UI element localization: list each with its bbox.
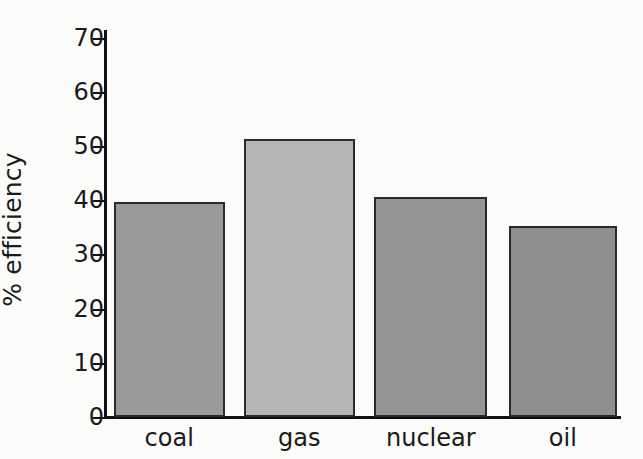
x-axis-label-coal: coal xyxy=(114,424,225,452)
y-axis-tick-label: 70 xyxy=(58,24,104,52)
bar-coal[interactable] xyxy=(114,202,225,417)
y-axis-tick-label: 50 xyxy=(58,132,104,160)
y-axis-tick-label: 60 xyxy=(58,78,104,106)
y-axis-tick-label: 30 xyxy=(58,240,104,268)
x-axis-label-gas: gas xyxy=(244,424,355,452)
y-axis-label: % efficiency xyxy=(0,0,44,459)
y-axis-tick-label: 0 xyxy=(58,403,104,431)
bar-chart-figure: % efficiency 010203040506070 coalgasnucl… xyxy=(0,0,643,459)
plot-area xyxy=(104,30,621,417)
x-axis-label-oil: oil xyxy=(509,424,617,452)
y-axis-tick-label: 10 xyxy=(58,349,104,377)
bar-oil[interactable] xyxy=(509,226,617,417)
bar-gas[interactable] xyxy=(244,139,355,417)
y-axis-tick-label: 20 xyxy=(58,295,104,323)
y-axis-tick-label: 40 xyxy=(58,186,104,214)
x-axis-label-nuclear: nuclear xyxy=(374,424,487,452)
bar-nuclear[interactable] xyxy=(374,197,487,417)
